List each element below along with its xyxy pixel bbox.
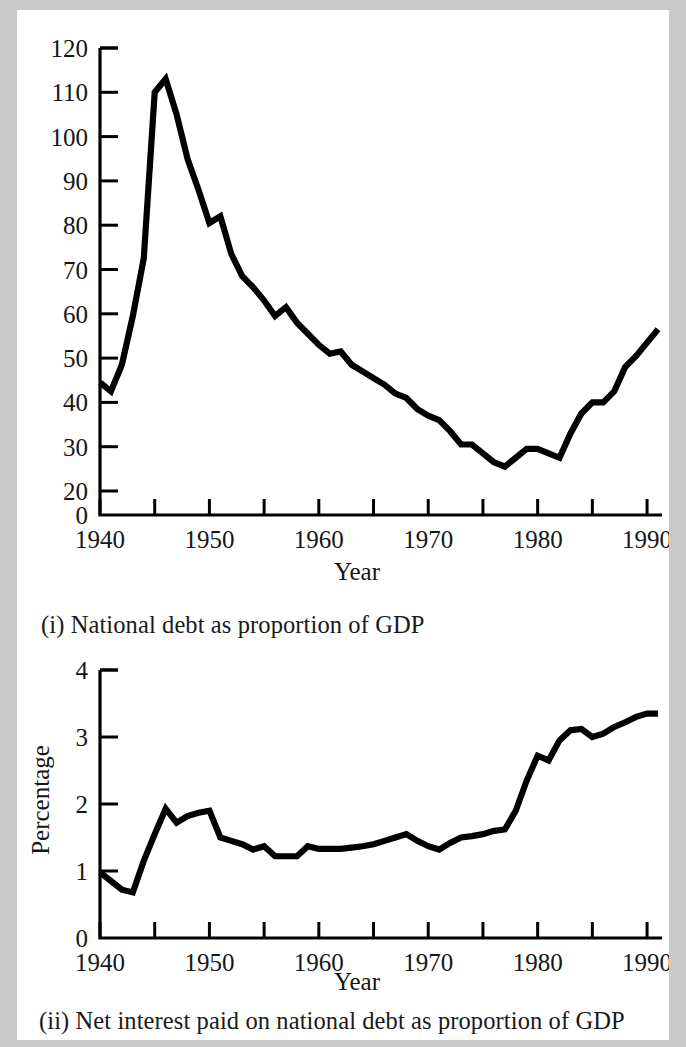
y-tick-label-ii: 0 (76, 925, 89, 952)
x-tick-label-ii: 1970 (403, 949, 453, 976)
x-tick-label-ii: 1990 (622, 949, 669, 976)
x-tick-label-i: 1940 (75, 526, 125, 553)
y-tick-label-ii: 1 (76, 858, 89, 885)
x-axis-title-ii: Year (334, 968, 381, 995)
chart-svg-net-interest: 01234194019501960197019801990 Year Perce… (17, 650, 669, 1010)
figure-page: 0203040506070809010011012019401950196019… (17, 10, 669, 1040)
x-tick-label-i: 1990 (622, 526, 669, 553)
axis-spine-ii (100, 670, 662, 938)
tick-label-group-i: 0203040506070809010011012019401950196019… (51, 35, 670, 553)
chart-svg-national-debt: 0203040506070809010011012019401950196019… (17, 10, 669, 610)
axes-group-i (100, 48, 662, 515)
y-tick-label-ii: 2 (76, 791, 89, 818)
y-axis-title-ii: Percentage (27, 745, 54, 855)
y-tick-label-ii: 3 (76, 724, 89, 751)
x-tick-label-i: 1980 (513, 526, 563, 553)
axes-group-ii (100, 670, 662, 938)
y-tick-label-i: 110 (51, 79, 88, 106)
chart-panel-national-debt: 0203040506070809010011012019401950196019… (17, 10, 669, 610)
data-line-national-debt (100, 79, 658, 467)
x-tick-label-ii: 1980 (513, 949, 563, 976)
x-axis-title-i: Year (334, 558, 381, 585)
caption-panel-i: (i) National debt as proportion of GDP (41, 611, 424, 639)
y-tick-label-i: 40 (63, 389, 88, 416)
y-tick-label-i: 20 (63, 478, 88, 505)
axis-spine-i (100, 48, 662, 515)
caption-panel-ii: (ii) Net interest paid on national debt … (39, 1007, 625, 1035)
y-tick-label-ii: 4 (76, 657, 89, 684)
y-tick-label-i: 80 (63, 212, 88, 239)
y-tick-label-i: 90 (63, 168, 88, 195)
y-tick-label-i: 100 (51, 124, 89, 151)
y-tick-label-i: 50 (63, 345, 88, 372)
x-tick-label-i: 1970 (403, 526, 453, 553)
data-line-net-interest (100, 714, 658, 893)
y-tick-label-i: 60 (63, 301, 88, 328)
y-tick-label-i: 30 (63, 434, 88, 461)
y-tick-label-i: 120 (51, 35, 89, 62)
y-tick-label-i: 0 (76, 502, 89, 529)
chart-panel-net-interest: 01234194019501960197019801990 Year Perce… (17, 650, 669, 1010)
x-tick-label-i: 1960 (294, 526, 344, 553)
x-tick-label-ii: 1940 (75, 949, 125, 976)
x-tick-label-i: 1950 (184, 526, 234, 553)
y-tick-label-i: 70 (63, 257, 88, 284)
x-tick-label-ii: 1950 (184, 949, 234, 976)
